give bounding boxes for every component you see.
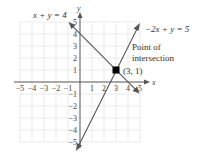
annotation-point-of: Point of [132,42,161,52]
x-tick-labels: −5 −4 −3 −2 −1 1 2 3 4 5 [16,84,142,93]
svg-text:3: 3 [114,84,118,93]
arrowhead-icon [76,143,82,151]
x-axis-label: x [151,78,156,87]
svg-text:2: 2 [73,54,77,63]
svg-text:−4: −4 [28,84,37,93]
x-axis-arrow-icon [144,80,150,85]
svg-text:−2: −2 [68,102,77,111]
point-label: (3, 1) [123,66,143,76]
svg-text:−5: −5 [68,138,77,147]
y-axis-label: y [76,4,81,13]
svg-text:−4: −4 [68,126,77,135]
annotation-intersection: intersection [132,53,174,63]
line-neg2x-plus-y-eq-5 [76,23,140,151]
equation-label-1: x + y = 4 [32,10,67,20]
svg-text:1: 1 [73,66,77,75]
svg-text:−1: −1 [68,90,77,99]
svg-text:−3: −3 [68,114,77,123]
svg-text:4: 4 [73,30,77,39]
svg-text:−3: −3 [40,84,49,93]
arrowhead-icon [134,23,141,31]
svg-text:1: 1 [90,84,94,93]
intersection-point-marker [113,67,120,74]
coordinate-plane: x y −5 −4 −3 −2 −1 1 2 3 4 5 5 4 3 2 1 −… [0,0,200,159]
svg-text:−5: −5 [16,84,25,93]
svg-text:4: 4 [126,84,130,93]
svg-text:3: 3 [73,42,77,51]
svg-text:−2: −2 [52,84,61,93]
axes [14,16,146,148]
equation-label-2: −2x + y = 5 [145,24,190,34]
